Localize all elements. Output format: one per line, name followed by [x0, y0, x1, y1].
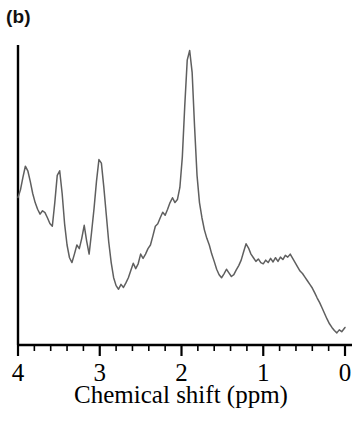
x-axis-title: Chemical shift (ppm) — [0, 381, 362, 409]
nmr-spectrum-figure: (b) 43210 Chemical shift (ppm) — [0, 0, 362, 427]
spectrum-plot: 43210 — [0, 0, 362, 427]
axes — [17, 45, 352, 345]
x-axis-ticks — [18, 345, 345, 356]
spectrum-trace — [18, 50, 345, 332]
